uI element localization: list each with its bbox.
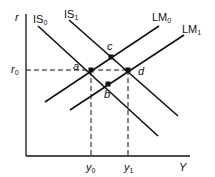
- is-lm-diagram: r Y r0 y0 y1 IS0 IS1 LM0 LM1 a b c d: [0, 0, 215, 177]
- r-axis-label: r: [15, 11, 20, 23]
- point-a-marker: [89, 68, 94, 73]
- point-b-label: b: [104, 88, 110, 100]
- is0-curve: [38, 26, 158, 136]
- lm0-curve: [45, 26, 159, 102]
- point-c-marker: [109, 55, 114, 60]
- y0-label: y0: [85, 161, 96, 174]
- is0-label: IS0: [33, 13, 47, 26]
- is1-curve: [69, 20, 178, 116]
- lm0-label: LM0: [152, 11, 171, 24]
- point-a-label: a: [73, 60, 79, 72]
- point-d-label: d: [138, 65, 145, 77]
- lm1-label: LM1: [182, 23, 201, 36]
- point-b-marker: [106, 82, 111, 87]
- point-c-label: c: [107, 40, 113, 52]
- y1-label: y1: [123, 161, 134, 174]
- is1-label: IS1: [64, 8, 78, 21]
- point-d-marker: [126, 68, 131, 73]
- y-axis-label: Y: [179, 161, 187, 173]
- r0-label: r0: [11, 63, 19, 76]
